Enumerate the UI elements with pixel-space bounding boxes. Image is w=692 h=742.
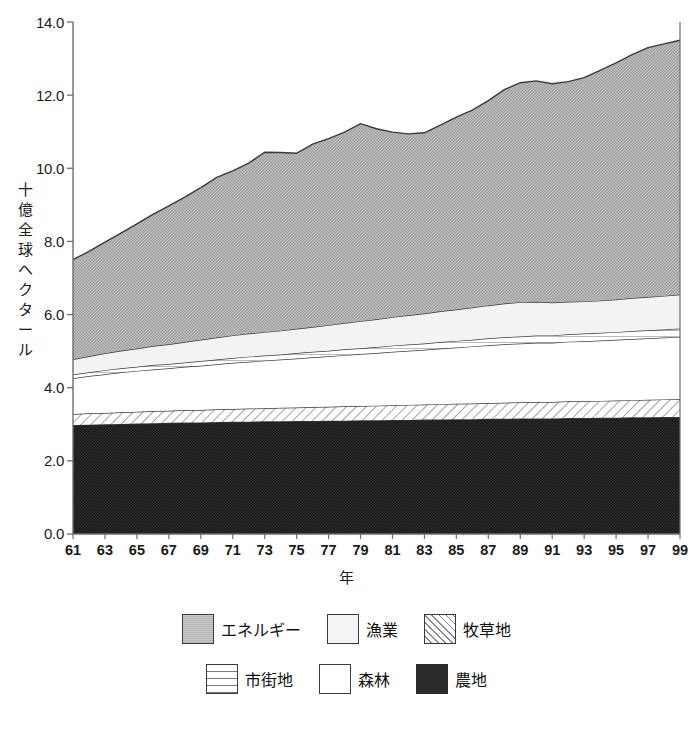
x-tick-label: 69 (188, 542, 214, 558)
x-axis-title: 年 (0, 566, 692, 587)
x-tick-label: 71 (220, 542, 246, 558)
legend-label-urban: 市街地 (245, 667, 293, 691)
legend-label-energy: エネルギー (221, 617, 301, 641)
legend-swatch-fisheries (327, 614, 359, 644)
legend-swatch-forest (319, 664, 351, 694)
legend-label-fisheries: 漁業 (366, 617, 398, 641)
legend-item-energy[interactable]: エネルギー (182, 614, 327, 644)
plot-canvas (0, 0, 692, 560)
x-tick-label: 95 (603, 542, 629, 558)
x-tick-label: 89 (507, 542, 533, 558)
x-tick-label: 65 (124, 542, 150, 558)
legend-swatch-pasture (424, 614, 456, 644)
legend-row-1: エネルギー 漁業 牧草地 (0, 604, 692, 654)
legend-swatch-cropland (416, 664, 448, 694)
x-tick-label: 61 (60, 542, 86, 558)
legend-label-cropland: 農地 (455, 667, 487, 691)
chart-page: 14.0 12.0 10.0 8.0 6.0 4.0 2.0 0.0 十 億 全… (0, 0, 692, 742)
x-tick-label: 63 (92, 542, 118, 558)
x-tick-label: 83 (411, 542, 437, 558)
x-tick-label: 77 (316, 542, 342, 558)
x-tick-marks (73, 534, 680, 539)
legend-row-2: 市街地 森林 農地 (0, 654, 692, 704)
legend-label-pasture: 牧草地 (463, 617, 511, 641)
x-tick-label: 75 (284, 542, 310, 558)
x-tick-label: 81 (379, 542, 405, 558)
area-layer-cropland (73, 417, 680, 534)
legend-swatch-urban (206, 664, 238, 694)
area-layers (73, 40, 680, 534)
legend-item-fisheries[interactable]: 漁業 (327, 614, 424, 644)
legend-item-cropland[interactable]: 農地 (416, 664, 487, 694)
x-tick-label: 87 (475, 542, 501, 558)
chart-legend: エネルギー 漁業 牧草地 市街地 森林 農地 (0, 604, 692, 704)
x-tick-label: 79 (348, 542, 374, 558)
x-tick-label: 85 (443, 542, 469, 558)
stacked-area-chart: 14.0 12.0 10.0 8.0 6.0 4.0 2.0 0.0 十 億 全… (0, 0, 692, 560)
legend-swatch-energy (182, 614, 214, 644)
legend-item-urban[interactable]: 市街地 (206, 664, 319, 694)
legend-label-forest: 森林 (358, 667, 390, 691)
x-tick-label: 97 (635, 542, 661, 558)
x-tick-label: 67 (156, 542, 182, 558)
x-tick-label: 73 (252, 542, 278, 558)
legend-item-forest[interactable]: 森林 (319, 664, 416, 694)
x-tick-label: 91 (539, 542, 565, 558)
legend-item-pasture[interactable]: 牧草地 (424, 614, 511, 644)
x-tick-label: 99 (667, 542, 692, 558)
x-tick-label: 93 (571, 542, 597, 558)
